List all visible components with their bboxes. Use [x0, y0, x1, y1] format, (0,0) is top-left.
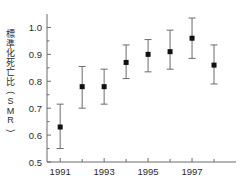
data-point-group — [57, 104, 64, 148]
data-point-marker — [146, 52, 151, 57]
data-point-group — [167, 30, 174, 69]
data-point-marker — [190, 36, 195, 41]
data-point-marker — [212, 63, 217, 68]
data-point-marker — [168, 49, 173, 54]
data-point-group — [189, 18, 196, 58]
data-point-marker — [80, 84, 85, 89]
data-point-marker — [58, 125, 63, 130]
data-point-group — [101, 69, 108, 104]
chart-container: 標準化死亡比(SMR) 0.50.60.70.80.91.0 199119931… — [0, 0, 242, 190]
data-series — [57, 18, 218, 149]
data-point-marker — [102, 84, 107, 89]
data-point-group — [145, 40, 152, 72]
data-point-group — [123, 45, 130, 79]
data-point-group — [79, 66, 86, 108]
data-point-group — [211, 45, 218, 84]
data-point-marker — [124, 60, 129, 65]
plot-area — [0, 0, 242, 190]
